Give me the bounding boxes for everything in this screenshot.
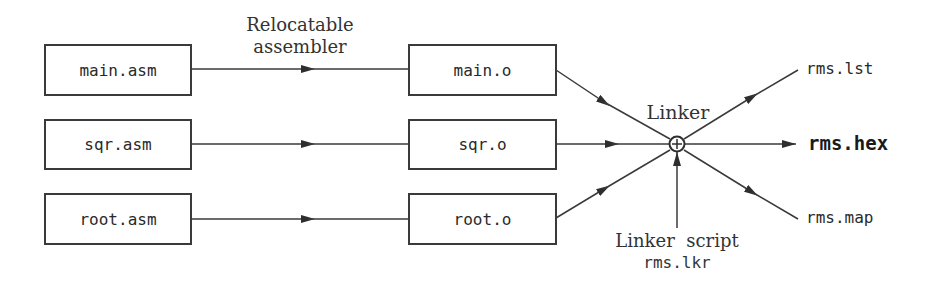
- arrow-linker-to-map: [684, 150, 752, 192]
- linker-label: Linker: [640, 101, 716, 123]
- object-box-main-o: main.o: [408, 44, 557, 96]
- arrow-root-o-to-linker: [556, 189, 604, 218]
- object-box-sqr-o: sqr.o: [408, 119, 557, 170]
- source-box-main-asm: main.asm: [44, 44, 192, 96]
- source-label: root.asm: [79, 210, 156, 229]
- assembler-stage-label: Relocatable assembler: [230, 14, 370, 58]
- source-box-root-asm: root.asm: [44, 193, 192, 245]
- source-label: sqr.asm: [84, 135, 151, 154]
- linker-script-file: rms.lkr: [612, 252, 742, 274]
- output-hex: rms.hex: [808, 132, 888, 154]
- output-lst: rms.lst: [806, 59, 873, 78]
- arrow-main-o-to-linker: [556, 70, 604, 102]
- linker-script-label: Linker script rms.lkr: [612, 230, 742, 274]
- source-box-sqr-asm: sqr.asm: [44, 119, 192, 170]
- linker-junction-icon: [670, 137, 685, 152]
- object-label: main.o: [454, 61, 512, 80]
- object-label: sqr.o: [458, 135, 506, 154]
- output-map: rms.map: [806, 208, 873, 227]
- linker-script-title: Linker script: [612, 230, 742, 252]
- assembler-label-line2: assembler: [230, 36, 370, 58]
- object-label: root.o: [454, 210, 512, 229]
- assembler-label-line1: Relocatable: [230, 14, 370, 36]
- object-box-root-o: root.o: [408, 193, 557, 245]
- source-label: main.asm: [79, 61, 156, 80]
